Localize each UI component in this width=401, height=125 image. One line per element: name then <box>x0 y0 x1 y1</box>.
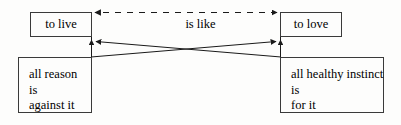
node-all-healthy-instinct-line-3: for it <box>291 98 383 114</box>
node-all-reason-line-2: is <box>29 83 91 99</box>
node-all-healthy-instinct-line-1: all healthy instinct <box>291 67 383 83</box>
edge-label-is-like: is like <box>0 17 401 32</box>
node-all-reason-line-3: against it <box>29 98 91 114</box>
node-all-reason-line-1: all reason <box>29 67 91 83</box>
node-all-healthy-instinct-line-2: is <box>291 83 383 99</box>
node-all-reason: all reason is against it <box>18 57 92 113</box>
diagram-canvas: to live to love all reason is against it… <box>0 0 401 125</box>
node-all-healthy-instinct: all healthy instinct is for it <box>280 57 384 113</box>
